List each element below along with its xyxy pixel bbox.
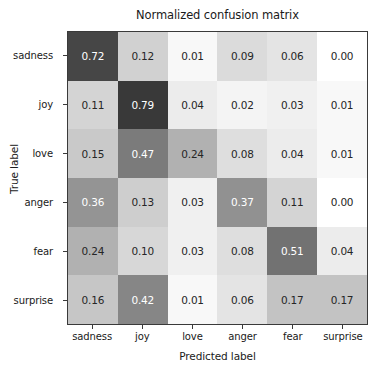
matrix-cell: 0.09 bbox=[217, 32, 267, 81]
matrix-cell: 0.42 bbox=[118, 275, 168, 324]
chart-title: Normalized confusion matrix bbox=[67, 8, 368, 22]
x-axis-title: Predicted label bbox=[67, 350, 368, 362]
x-axis-tick-mark bbox=[167, 325, 217, 329]
matrix-cell: 0.17 bbox=[317, 275, 367, 324]
matrix-cell: 0.24 bbox=[68, 227, 118, 276]
y-axis-tick-label: love bbox=[0, 129, 57, 178]
x-axis-tick-marks bbox=[67, 325, 368, 329]
matrix-cell: 0.15 bbox=[68, 129, 118, 178]
matrix-cell: 0.01 bbox=[168, 32, 218, 81]
x-axis-tick-mark bbox=[318, 325, 368, 329]
matrix-cell: 0.11 bbox=[267, 178, 317, 227]
matrix-cell: 0.03 bbox=[168, 178, 218, 227]
matrix-cell: 0.08 bbox=[217, 129, 267, 178]
x-axis-tick-label: joy bbox=[117, 331, 167, 342]
matrix-cell: 0.01 bbox=[168, 275, 218, 324]
matrix-cell: 0.06 bbox=[217, 275, 267, 324]
x-axis-tick-labels: sadnessjoyloveangerfearsurprise bbox=[67, 331, 368, 342]
matrix-cell: 0.17 bbox=[267, 275, 317, 324]
matrix-cell: 0.03 bbox=[168, 227, 218, 276]
matrix-cell: 0.01 bbox=[317, 129, 367, 178]
x-axis-tick-mark bbox=[218, 325, 268, 329]
matrix-cell: 0.24 bbox=[168, 129, 218, 178]
matrix-cell: 0.04 bbox=[317, 227, 367, 276]
matrix-cell: 0.37 bbox=[217, 178, 267, 227]
matrix-cell: 0.08 bbox=[217, 227, 267, 276]
heatmap-plot-area: 0.720.120.010.090.060.000.110.790.040.02… bbox=[67, 31, 368, 325]
x-axis-tick-label: surprise bbox=[318, 331, 368, 342]
matrix-cell: 0.04 bbox=[267, 129, 317, 178]
y-axis-tick-label: joy bbox=[0, 80, 57, 129]
y-axis-tick-label: surprise bbox=[0, 276, 57, 325]
x-axis-tick-label: fear bbox=[268, 331, 318, 342]
matrix-cell: 0.11 bbox=[68, 81, 118, 130]
x-axis-tick-label: anger bbox=[218, 331, 268, 342]
matrix-cell: 0.06 bbox=[267, 32, 317, 81]
matrix-cell: 0.36 bbox=[68, 178, 118, 227]
y-axis-tick-labels: sadnessjoyloveangerfearsurprise bbox=[0, 31, 57, 325]
x-axis-tick-label: sadness bbox=[67, 331, 117, 342]
y-axis-tick-label: anger bbox=[0, 178, 57, 227]
matrix-cell: 0.10 bbox=[118, 227, 168, 276]
x-axis-tick-mark bbox=[268, 325, 318, 329]
confusion-matrix-figure: Normalized confusion matrix True label s… bbox=[0, 0, 379, 372]
matrix-cell: 0.79 bbox=[118, 81, 168, 130]
x-axis-tick-label: love bbox=[167, 331, 217, 342]
matrix-cell: 0.00 bbox=[317, 178, 367, 227]
x-axis-tick-mark bbox=[117, 325, 167, 329]
matrix-cell: 0.02 bbox=[217, 81, 267, 130]
confusion-matrix-grid: 0.720.120.010.090.060.000.110.790.040.02… bbox=[68, 32, 367, 324]
matrix-cell: 0.16 bbox=[68, 275, 118, 324]
matrix-cell: 0.03 bbox=[267, 81, 317, 130]
matrix-cell: 0.00 bbox=[317, 32, 367, 81]
matrix-cell: 0.51 bbox=[267, 227, 317, 276]
matrix-cell: 0.47 bbox=[118, 129, 168, 178]
matrix-cell: 0.12 bbox=[118, 32, 168, 81]
y-axis-tick-label: fear bbox=[0, 227, 57, 276]
matrix-cell: 0.13 bbox=[118, 178, 168, 227]
y-axis-tick-label: sadness bbox=[0, 31, 57, 80]
x-axis-tick-mark bbox=[67, 325, 117, 329]
matrix-cell: 0.04 bbox=[168, 81, 218, 130]
matrix-cell: 0.72 bbox=[68, 32, 118, 81]
matrix-cell: 0.01 bbox=[317, 81, 367, 130]
